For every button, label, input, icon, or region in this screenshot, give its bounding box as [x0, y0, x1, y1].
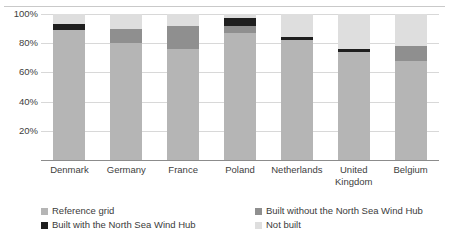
x-axis-category-label: Netherlands: [268, 164, 325, 187]
bar-slot: [155, 14, 212, 160]
y-axis-tick-label: 40%: [2, 97, 38, 107]
bar-segment[interactable]: [338, 49, 370, 52]
bar-segment[interactable]: [224, 33, 256, 160]
bar-segment[interactable]: [53, 14, 85, 24]
stacked-bar[interactable]: [395, 14, 427, 160]
legend-item[interactable]: Reference grid: [41, 204, 251, 218]
bar-segment[interactable]: [395, 46, 427, 61]
bar-segment[interactable]: [224, 26, 256, 33]
x-axis-labels: DenmarkGermanyFrancePolandNetherlandsUni…: [41, 164, 439, 187]
y-axis: 20%40%60%80%100%: [0, 14, 38, 160]
bar-segment[interactable]: [224, 18, 256, 25]
y-axis-tick-label: 100%: [2, 9, 38, 19]
bar-segment[interactable]: [224, 14, 256, 18]
bar-segment[interactable]: [281, 14, 313, 37]
y-axis-tick-label: 80%: [2, 38, 38, 48]
legend-item[interactable]: Built with the North Sea Wind Hub: [41, 218, 251, 232]
legend-item[interactable]: Not built: [255, 218, 449, 232]
stacked-bar[interactable]: [110, 14, 142, 160]
stacked-bar[interactable]: [281, 14, 313, 160]
x-axis-line: [41, 160, 439, 161]
y-axis-tick-label: 60%: [2, 67, 38, 77]
bar-segment[interactable]: [53, 30, 85, 160]
bar-slot: [268, 14, 325, 160]
stacked-bar[interactable]: [224, 14, 256, 160]
legend-swatch-icon: [41, 222, 48, 229]
legend-swatch-icon: [41, 208, 48, 215]
bar-segment[interactable]: [338, 14, 370, 49]
bar-segment[interactable]: [110, 43, 142, 160]
bar-segment[interactable]: [281, 37, 313, 40]
legend-label: Reference grid: [52, 205, 114, 217]
bar-slot: [325, 14, 382, 160]
bar-segment[interactable]: [53, 24, 85, 30]
top-rule-divider: [4, 6, 445, 7]
x-axis-category-label: Denmark: [41, 164, 98, 187]
bar-segment[interactable]: [167, 26, 199, 49]
stacked-bar[interactable]: [167, 14, 199, 160]
legend-label: Built with the North Sea Wind Hub: [52, 219, 196, 231]
legend-item[interactable]: Built without the North Sea Wind Hub: [255, 204, 449, 218]
stacked-bar[interactable]: [53, 14, 85, 160]
legend-label: Not built: [266, 219, 301, 231]
bar-segment[interactable]: [395, 61, 427, 160]
x-axis-category-label: Poland: [212, 164, 269, 187]
bar-segment[interactable]: [281, 40, 313, 160]
bar-segment[interactable]: [395, 14, 427, 46]
bar-segment[interactable]: [338, 52, 370, 160]
bar-segment[interactable]: [167, 14, 199, 26]
bar-slot: [212, 14, 269, 160]
x-axis-category-label: Belgium: [382, 164, 439, 187]
bar-segment[interactable]: [110, 29, 142, 44]
legend-swatch-icon: [255, 222, 262, 229]
bar-slot: [98, 14, 155, 160]
bar-segment[interactable]: [167, 49, 199, 160]
x-axis-category-label: France: [155, 164, 212, 187]
legend-swatch-icon: [255, 208, 262, 215]
legend-label: Built without the North Sea Wind Hub: [266, 205, 423, 217]
x-axis-category-label: Germany: [98, 164, 155, 187]
bar-segment[interactable]: [110, 14, 142, 29]
stacked-bar-chart: 20%40%60%80%100% DenmarkGermanyFrancePol…: [0, 0, 449, 239]
chart-legend: Reference gridBuilt without the North Se…: [41, 204, 449, 234]
y-axis-tick-label: 20%: [2, 126, 38, 136]
bar-slot: [382, 14, 439, 160]
bar-group-container: [41, 14, 439, 160]
stacked-bar[interactable]: [338, 14, 370, 160]
bar-slot: [41, 14, 98, 160]
x-axis-category-label: United Kingdom: [325, 164, 382, 187]
